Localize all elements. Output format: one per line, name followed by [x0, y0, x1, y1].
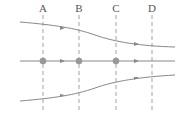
particle-b [76, 58, 83, 65]
streamline-diagram: A B C D [0, 0, 184, 115]
arrow-icon [134, 59, 139, 63]
section-lines [43, 15, 152, 110]
section-label-d: D [148, 2, 156, 14]
section-label-b: B [75, 2, 82, 14]
section-label-c: C [112, 2, 119, 14]
section-label-a: A [39, 2, 47, 14]
particle-a [40, 58, 47, 65]
particle-c [113, 58, 120, 65]
arrow-icon [60, 59, 65, 63]
arrow-icon [134, 42, 139, 46]
